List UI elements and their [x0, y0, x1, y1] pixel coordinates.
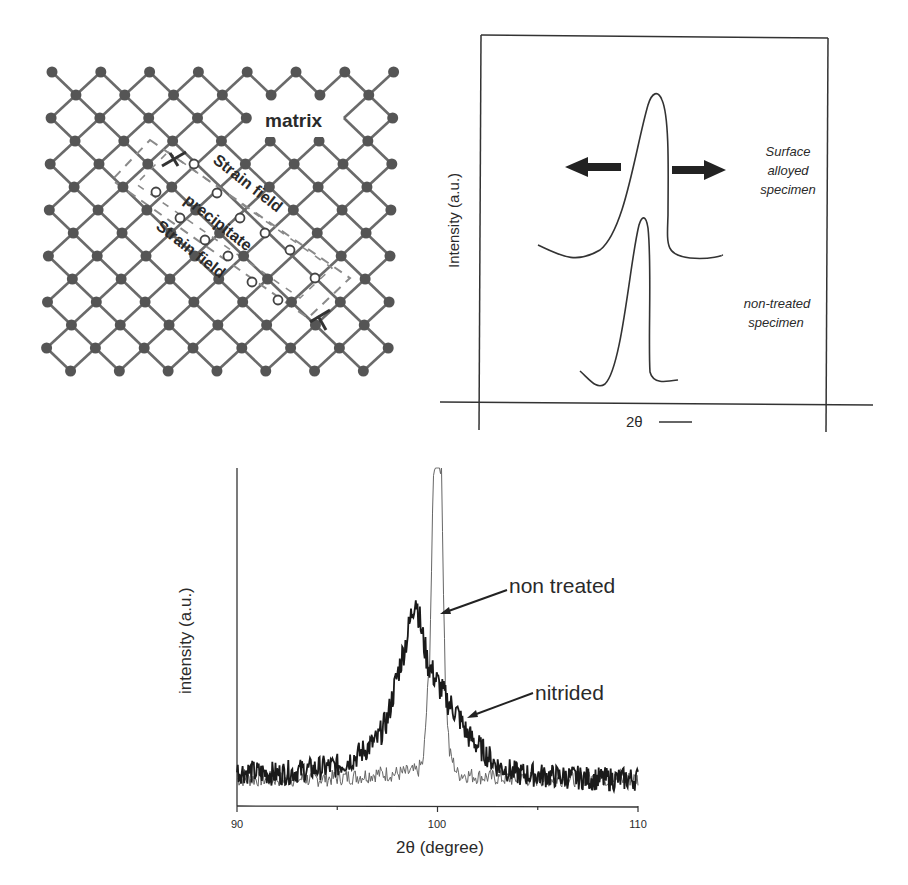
schematic-plot: Intensity (a.u.) Surface alloyed specime… — [420, 0, 908, 440]
non-treated-label-line2: specimen — [748, 315, 804, 330]
frame-top — [481, 35, 828, 38]
xrd-y-axis-label: intensity (a.u.) — [176, 587, 195, 694]
non-treated-series — [237, 468, 638, 787]
xtick-label-110: 110 — [629, 818, 647, 830]
xtick-label-100: 100 — [428, 818, 446, 830]
schematic-y-axis-label: Intensity (a.u.) — [445, 173, 462, 268]
non-treated-pointer-arrow-icon — [443, 590, 507, 613]
nitrided-pointer-arrow-icon — [471, 693, 533, 716]
matrix-label: matrix — [265, 110, 322, 131]
xrd-x-axis-label: 2θ (degree) — [396, 838, 484, 857]
lattice-illustration: matrix Strain field precipitate Strain f… — [0, 0, 430, 400]
surface-alloyed-label-line3: specimen — [760, 182, 816, 197]
xrd-measurement-chart: 90 100 110 2θ (degree) intensity (a.u.) … — [180, 440, 680, 885]
schematic-xrd-chart: Intensity (a.u.) Surface alloyed specime… — [420, 0, 908, 440]
surface-alloyed-label-line1: Surface — [766, 144, 811, 159]
surface-alloyed-curve — [538, 94, 722, 259]
non-treated-label-line1: non-treated — [744, 296, 811, 311]
xtick-label-90: 90 — [231, 818, 243, 830]
xrd-plot: 90 100 110 2θ (degree) intensity (a.u.) … — [180, 440, 680, 885]
non-treated-arrowhead-icon — [440, 607, 451, 614]
nitrided-annotation: nitrided — [535, 681, 604, 704]
non-treated-curve — [580, 218, 678, 386]
right-broadening-arrow-icon — [672, 160, 726, 180]
x-axis — [440, 402, 873, 405]
y-axis — [479, 35, 481, 430]
frame-right — [826, 38, 828, 432]
nitrided-arrowhead-icon — [467, 710, 478, 718]
schematic-x-axis-label: 2θ — [626, 413, 643, 430]
left-broadening-arrow-icon — [565, 157, 621, 177]
surface-alloyed-label-line2: alloyed — [767, 163, 809, 178]
lattice-diagram: matrix Strain field precipitate Strain f… — [0, 0, 430, 400]
non-treated-annotation: non treated — [509, 574, 615, 597]
